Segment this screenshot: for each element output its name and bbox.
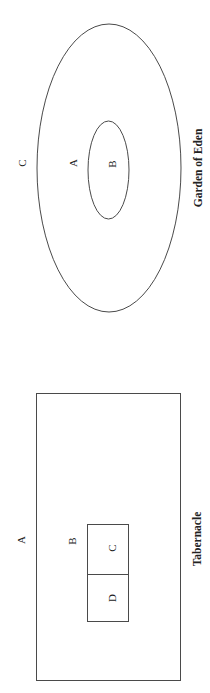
diagram-canvas: C A B Garden of Eden A B C D Tabernacle bbox=[0, 0, 210, 693]
garden-of-eden-diagram: C A B Garden of Eden bbox=[16, 24, 204, 312]
caption-garden-of-eden: Garden of Eden bbox=[192, 128, 204, 207]
inner-rectangle bbox=[88, 525, 129, 622]
inner-ellipse bbox=[88, 121, 129, 219]
label-inner: B bbox=[106, 160, 118, 167]
label-inner-first: C bbox=[106, 544, 118, 551]
label-outer-outside: C bbox=[16, 159, 28, 166]
label-outer-outside: A bbox=[15, 536, 27, 544]
label-outer-inside: B bbox=[66, 537, 78, 544]
outer-rectangle bbox=[37, 394, 181, 681]
caption-tabernacle: Tabernacle bbox=[191, 512, 203, 567]
tabernacle-diagram: A B C D Tabernacle bbox=[15, 394, 203, 681]
label-outer-inside: A bbox=[67, 159, 79, 167]
label-inner-second: D bbox=[106, 594, 118, 602]
